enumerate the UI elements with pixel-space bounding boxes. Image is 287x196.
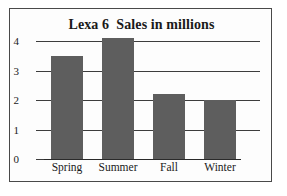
chart-title: Lexa 6 Sales in millions bbox=[10, 17, 273, 33]
y-tickmark-0 bbox=[36, 159, 44, 160]
x-tick-label-spring: Spring bbox=[38, 161, 96, 174]
x-axis-baseline bbox=[44, 159, 241, 160]
gridline-4 bbox=[44, 41, 260, 42]
x-tick-label-fall: Fall bbox=[140, 161, 198, 174]
plot-area bbox=[44, 41, 260, 159]
y-tick-label-2: 2 bbox=[1, 95, 19, 106]
y-tick-label-4: 4 bbox=[1, 36, 19, 47]
y-tickmark-1 bbox=[36, 130, 44, 131]
x-tick-label-summer: Summer bbox=[89, 161, 147, 174]
bar-winter bbox=[204, 100, 236, 159]
bar-spring bbox=[51, 56, 83, 159]
y-tickmark-3 bbox=[36, 71, 44, 72]
y-tickmark-4 bbox=[36, 41, 44, 42]
y-tick-label-0: 0 bbox=[1, 154, 19, 165]
bar-fall bbox=[153, 94, 185, 159]
bar-summer bbox=[102, 38, 134, 159]
x-tick-label-winter: Winter bbox=[191, 161, 249, 174]
y-tickmark-2 bbox=[36, 100, 44, 101]
y-tick-label-3: 3 bbox=[1, 66, 19, 77]
chart-frame: Lexa 6 Sales in millions 0 1 2 3 4 Sprin… bbox=[9, 8, 272, 182]
y-tick-label-1: 1 bbox=[1, 125, 19, 136]
